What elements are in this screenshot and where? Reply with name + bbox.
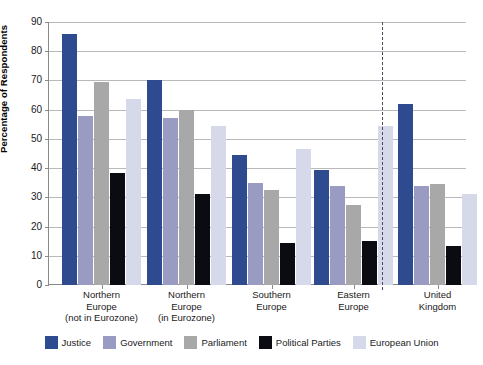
x-axis-category-label-line: Kingdom — [383, 301, 483, 313]
legend-swatch-icon — [259, 336, 272, 349]
y-axis-tick-label: 60 — [31, 105, 42, 115]
y-axis-tick-label: 70 — [31, 75, 42, 85]
legend-item[interactable]: Parliament — [184, 336, 246, 349]
chart-container: Percentage of Respondents 01020304050607… — [0, 0, 483, 365]
y-axis-tick-label: 50 — [31, 134, 42, 144]
legend-item[interactable]: Government — [103, 336, 172, 349]
x-axis-tick — [354, 285, 355, 289]
bar — [378, 126, 393, 285]
bars-layer — [48, 22, 466, 285]
legend-label: Parliament — [201, 337, 246, 348]
bar — [446, 246, 461, 285]
bar — [110, 173, 125, 286]
bar — [126, 99, 141, 285]
legend-label: Justice — [62, 337, 92, 348]
bar — [462, 194, 477, 285]
bar — [264, 190, 279, 285]
y-axis-tick-label: 90 — [31, 17, 42, 27]
y-axis-tick-label: 20 — [31, 222, 42, 232]
legend-swatch-icon — [103, 336, 116, 349]
legend-swatch-icon — [184, 336, 197, 349]
bar — [163, 118, 178, 285]
bar — [211, 126, 226, 285]
bar — [248, 183, 263, 285]
bar — [280, 243, 295, 285]
y-axis-title: Percentage of Respondents — [0, 25, 9, 153]
bar — [62, 34, 77, 285]
x-axis-labels: NorthernEurope(not in Eurozone)NorthernE… — [48, 289, 466, 335]
region-divider-line — [382, 22, 383, 290]
bar — [147, 80, 162, 285]
chart-legend: JusticeGovernmentParliamentPolitical Par… — [0, 336, 483, 349]
bar — [414, 186, 429, 285]
bar — [296, 149, 311, 285]
y-axis-tick-label: 0 — [36, 280, 42, 290]
bar — [94, 82, 109, 285]
bar — [232, 155, 247, 285]
legend-swatch-icon — [353, 336, 366, 349]
x-axis-tick — [187, 285, 188, 289]
bar — [330, 186, 345, 285]
bar-group — [232, 22, 311, 285]
y-axis-tick-label: 40 — [31, 163, 42, 173]
y-axis-tick-label: 80 — [31, 46, 42, 56]
bar — [78, 116, 93, 285]
x-axis-tick — [102, 285, 103, 289]
bar-group — [147, 22, 226, 285]
legend-item[interactable]: Justice — [45, 336, 92, 349]
bar-group — [398, 22, 477, 285]
bar — [314, 170, 329, 285]
legend-label: Government — [120, 337, 172, 348]
x-axis-category-label-line: (in Eurozone) — [132, 312, 242, 324]
y-axis-tick — [45, 285, 49, 286]
x-axis-category-label: UnitedKingdom — [383, 289, 483, 312]
bar — [398, 104, 413, 285]
bar-group — [62, 22, 141, 285]
y-axis-tick-label: 10 — [31, 251, 42, 261]
bar — [195, 194, 210, 285]
x-axis-tick — [438, 285, 439, 289]
legend-item[interactable]: Political Parties — [259, 336, 341, 349]
bar — [362, 241, 377, 285]
legend-label: Political Parties — [276, 337, 341, 348]
legend-swatch-icon — [45, 336, 58, 349]
bar — [430, 184, 445, 285]
legend-label: European Union — [370, 337, 439, 348]
bar — [346, 205, 361, 285]
legend-item[interactable]: European Union — [353, 336, 439, 349]
x-axis-category-label-line: United — [383, 289, 483, 301]
bar — [179, 110, 194, 285]
y-axis-tick-label: 30 — [31, 192, 42, 202]
x-axis-tick — [272, 285, 273, 289]
